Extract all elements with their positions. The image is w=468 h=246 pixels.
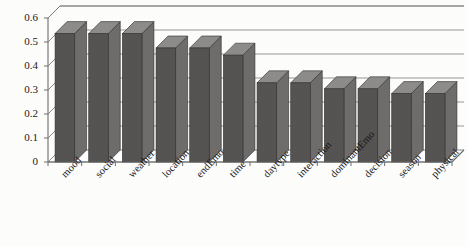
bar-side-face [176,36,188,162]
bar-front-face [55,34,75,162]
bar-front-face [257,83,277,162]
bar-front-face [392,94,412,162]
y-axis-label-2: 0.4 [4,59,38,71]
y-axis-label-5: 0.1 [4,131,38,143]
bar-chart: 0.60.50.40.30.20.10 moodsocialweatherloc… [0,0,468,246]
chart-canvas [0,0,468,246]
bar-side-face [209,36,221,162]
bar-weather [122,22,154,162]
bar-front-face [156,48,176,162]
y-axis-label-4: 0.2 [4,107,38,119]
y-axis-label-0: 0.6 [4,11,38,23]
y-axis-label-3: 0.3 [4,83,38,95]
bar-social [89,22,121,162]
bar-front-face [223,55,243,162]
bar-time [223,43,255,162]
bar-side-face [411,82,423,162]
bar-front-face [425,94,445,162]
bar-front-face [89,34,109,162]
bar-side-face [108,22,120,162]
bar-side-face [75,22,87,162]
bar-location [156,36,188,162]
bar-side-face [142,22,154,162]
bar-season [392,82,424,162]
bar-endEmo [190,36,222,162]
bar-front-face [122,34,142,162]
y-axis-label-1: 0.5 [4,35,38,47]
y-axis-label-6: 0 [4,155,38,167]
bar-front-face [190,48,210,162]
bar-front-face [291,83,311,162]
y-axis-top-depth [48,6,60,18]
bar-mood [55,22,87,162]
bar-side-face [243,43,255,162]
